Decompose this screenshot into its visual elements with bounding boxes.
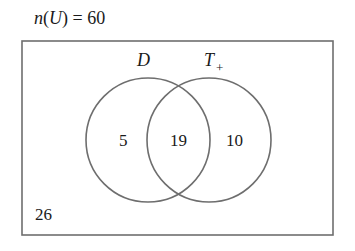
set-d-label: D [136,50,150,70]
set-t-subscript: + [216,60,223,75]
region-intersection-value: 19 [170,131,187,150]
region-outside-value: 26 [35,205,52,224]
set-t-plus-circle [147,78,271,202]
venn-diagram: D T + 5 19 10 26 [0,0,355,251]
set-t-label: T [204,50,216,70]
region-only-t-value: 10 [226,131,243,150]
set-d-circle [86,78,210,202]
region-only-d-value: 5 [119,131,128,150]
